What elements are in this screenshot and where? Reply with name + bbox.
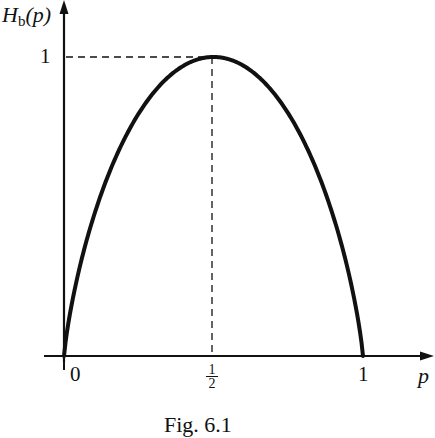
y-label-sub: b: [18, 13, 26, 29]
x-tick-half-den: 2: [206, 377, 218, 390]
x-tick-half-num: 1: [206, 363, 218, 377]
x-tick-1: 1: [358, 362, 369, 387]
figure-caption: Fig. 6.1: [164, 412, 232, 438]
x-axis-label: p: [418, 363, 429, 389]
y-axis-label: Hb(p): [2, 2, 51, 28]
x-tick-half: 1 2: [206, 363, 218, 390]
y-label-H: H: [2, 2, 18, 27]
y-tick-1: 1: [40, 44, 51, 69]
x-axis-arrow-icon: [420, 352, 434, 361]
entropy-curve: [64, 57, 363, 356]
x-tick-0: 0: [70, 362, 81, 387]
y-label-arg: (p): [25, 2, 51, 27]
y-axis-arrow-icon: [60, 0, 69, 14]
